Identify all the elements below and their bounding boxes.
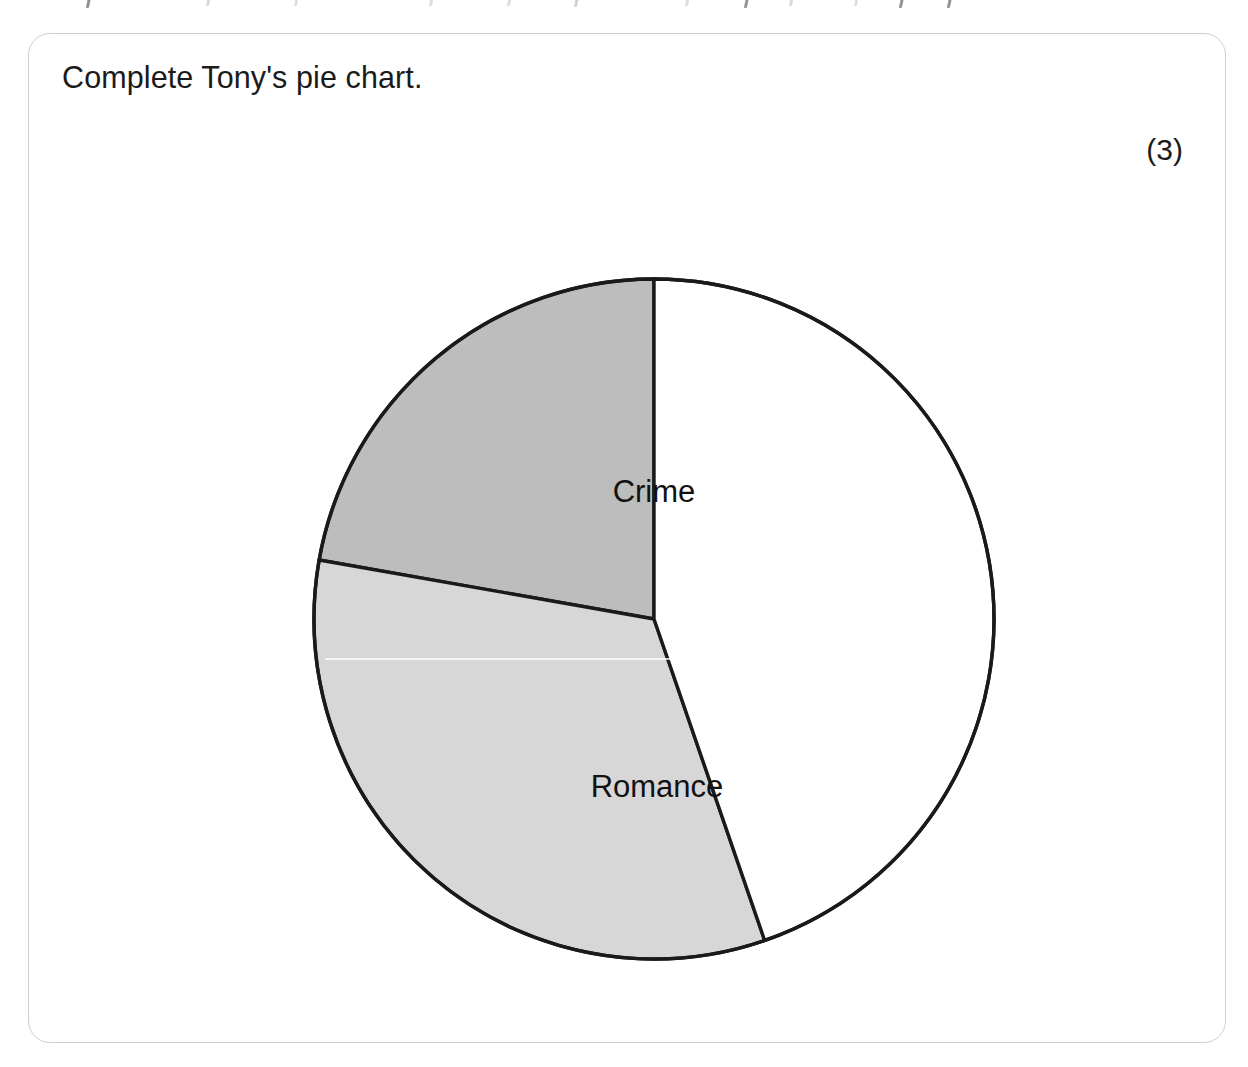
question-prompt: Complete Tony's pie chart.	[62, 58, 422, 96]
marks-available: (3)	[1146, 133, 1183, 167]
cropped-text-artifacts	[0, 0, 1248, 12]
pie-chart[interactable]: Crime Romance	[284, 249, 1024, 989]
pie-chart-svg[interactable]: Crime Romance	[284, 249, 1024, 989]
pie-label-romance: Romance	[591, 769, 724, 804]
pie-slices	[314, 279, 994, 959]
pie-label-crime: Crime	[613, 474, 696, 509]
question-card: Complete Tony's pie chart. (3) Crime Rom…	[28, 33, 1226, 1043]
